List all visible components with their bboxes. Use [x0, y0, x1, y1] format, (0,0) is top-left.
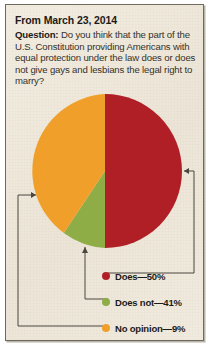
legend-item-no-opinion[interactable]: No opinion—9%	[102, 315, 202, 341]
card-content: From March 23, 2014 Question: Do you thi…	[6, 5, 203, 340]
legend-swatch-does-not-icon	[102, 298, 110, 306]
legend-item-does[interactable]: Does—50%	[102, 263, 202, 289]
legend-swatch-no-opinion-icon	[102, 324, 110, 332]
screenshot-root: From March 23, 2014 Question: Do you thi…	[0, 0, 214, 351]
poll-card: From March 23, 2014 Question: Do you thi…	[5, 4, 204, 341]
pie-slice-does[interactable]	[105, 94, 182, 248]
legend-swatch-does-icon	[102, 272, 110, 280]
legend-label-does-not: Does not—41%	[115, 297, 182, 308]
legend-label-does: Does—50%	[115, 271, 165, 282]
chart-legend: Does—50% Does not—41% No opinion—9%	[102, 263, 202, 341]
legend-label-no-opinion: No opinion—9%	[115, 323, 185, 334]
legend-item-does-not[interactable]: Does not—41%	[102, 289, 202, 315]
